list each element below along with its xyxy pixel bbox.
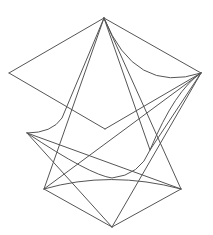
wireframe-figure <box>0 0 213 235</box>
edge-top-right-curve <box>104 18 201 78</box>
edge-bottomleft-bottomright-curve <box>44 180 181 190</box>
edge-center-right <box>105 73 201 129</box>
edge-right-midright <box>150 73 201 150</box>
edge-bottomright-bottom <box>112 189 181 227</box>
edge-bottomleft-bottom <box>44 189 112 227</box>
edge-top-bottom <box>104 18 150 150</box>
edge-right-bottom <box>112 73 201 227</box>
edge-left-center <box>9 73 105 129</box>
edge-midleft-bottomright <box>27 133 181 189</box>
edge-top-midleft-curve <box>27 18 104 133</box>
wireframe-drawing <box>0 0 213 235</box>
edge-top-bottomleft <box>44 18 104 189</box>
edge-top-left <box>9 18 104 73</box>
edge-right-bottomleft <box>44 73 201 189</box>
